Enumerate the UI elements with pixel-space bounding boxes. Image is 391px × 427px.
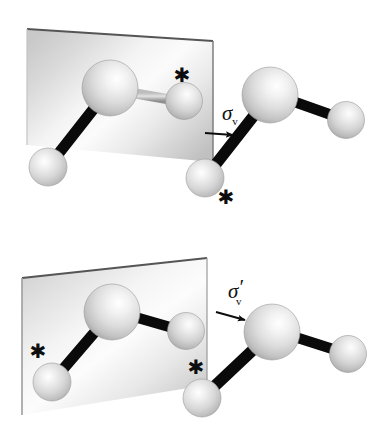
sigma-subscript: v bbox=[236, 295, 242, 307]
sigma-subscript: v bbox=[232, 115, 238, 127]
asterisk-reflected-icon: ✱ bbox=[218, 185, 235, 209]
asterisk-reflected-icon: ✱ bbox=[188, 355, 205, 379]
sigma-v-prime-label: σ′v bbox=[228, 275, 243, 307]
atom-outer-right bbox=[330, 336, 367, 373]
atom-central bbox=[84, 284, 140, 340]
atom-outer-right bbox=[328, 102, 365, 139]
atom-central bbox=[242, 67, 298, 123]
figure-root: ✱ σv ✱ bbox=[0, 0, 391, 427]
molecular-symmetry-figure: ✱ σv ✱ bbox=[0, 0, 391, 427]
asterisk-in-plane-icon: ✱ bbox=[174, 63, 191, 87]
atom-outer-right bbox=[168, 313, 205, 350]
atom-outer-lower-left-marked bbox=[183, 379, 221, 417]
atom-central bbox=[244, 304, 300, 360]
atom-outer-lower-left-marked bbox=[33, 363, 71, 401]
atom-central bbox=[82, 60, 138, 116]
atom-outer-right-marked bbox=[166, 83, 203, 120]
atom-outer-left bbox=[29, 148, 67, 186]
asterisk-in-plane-icon: ✱ bbox=[30, 339, 47, 363]
